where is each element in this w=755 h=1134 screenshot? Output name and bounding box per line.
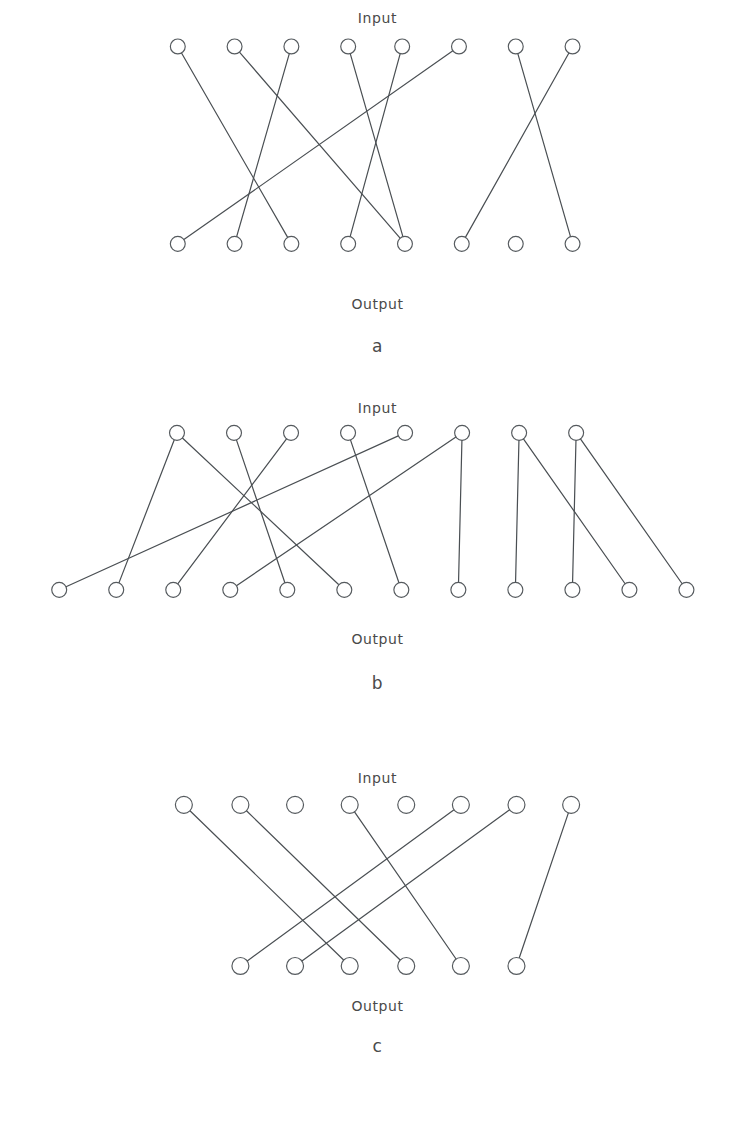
input-node[interactable] bbox=[452, 796, 469, 813]
output-node[interactable] bbox=[232, 957, 249, 974]
figure-c-letter: c bbox=[0, 1036, 755, 1056]
input-node[interactable] bbox=[170, 39, 185, 54]
input-node[interactable] bbox=[287, 796, 304, 813]
input-node[interactable] bbox=[284, 39, 299, 54]
figure-a-input-label: Input bbox=[0, 10, 755, 26]
output-node[interactable] bbox=[394, 582, 409, 597]
input-node[interactable] bbox=[395, 39, 410, 54]
graph-edge bbox=[182, 53, 288, 237]
figure-b-letter: b bbox=[0, 673, 755, 693]
output-node[interactable] bbox=[565, 582, 580, 597]
graph-edge bbox=[247, 810, 454, 961]
input-node[interactable] bbox=[508, 796, 525, 813]
output-node[interactable] bbox=[565, 236, 580, 251]
graph-edge bbox=[237, 54, 290, 237]
figure-c-graph bbox=[0, 786, 755, 998]
input-node[interactable] bbox=[452, 39, 467, 54]
figure-a: Input Output a bbox=[0, 10, 755, 400]
graph-edge bbox=[350, 440, 398, 583]
output-node[interactable] bbox=[398, 957, 415, 974]
input-node[interactable] bbox=[227, 39, 242, 54]
graph-edge bbox=[119, 440, 174, 583]
figure-b: Input Output b bbox=[0, 400, 755, 770]
input-node[interactable] bbox=[455, 425, 470, 440]
input-node[interactable] bbox=[398, 425, 413, 440]
figure-c-output-label: Output bbox=[0, 998, 755, 1014]
graph-edge bbox=[66, 436, 398, 587]
figure-c-input-label: Input bbox=[0, 770, 755, 786]
output-node[interactable] bbox=[109, 582, 124, 597]
input-node[interactable] bbox=[512, 425, 527, 440]
figure-c: Input Output c bbox=[0, 770, 755, 1134]
input-node[interactable] bbox=[569, 425, 584, 440]
input-node[interactable] bbox=[341, 39, 356, 54]
output-node[interactable] bbox=[280, 582, 295, 597]
output-node[interactable] bbox=[622, 582, 637, 597]
output-node[interactable] bbox=[284, 236, 299, 251]
input-node[interactable] bbox=[341, 796, 358, 813]
output-node[interactable] bbox=[679, 582, 694, 597]
figure-a-letter: a bbox=[0, 336, 755, 356]
output-node[interactable] bbox=[508, 236, 523, 251]
graph-edge bbox=[236, 440, 284, 583]
output-node[interactable] bbox=[166, 582, 181, 597]
input-node[interactable] bbox=[341, 425, 356, 440]
output-node[interactable] bbox=[52, 582, 67, 597]
input-node[interactable] bbox=[232, 796, 249, 813]
input-node[interactable] bbox=[565, 39, 580, 54]
output-node[interactable] bbox=[452, 957, 469, 974]
input-node[interactable] bbox=[398, 796, 415, 813]
graph-edge bbox=[516, 440, 519, 582]
output-node[interactable] bbox=[227, 236, 242, 251]
output-node[interactable] bbox=[398, 236, 413, 251]
figure-a-graph bbox=[0, 26, 755, 296]
output-node[interactable] bbox=[337, 582, 352, 597]
graph-edge bbox=[459, 440, 462, 582]
graph-edge bbox=[302, 810, 510, 961]
output-node[interactable] bbox=[287, 957, 304, 974]
graph-edge bbox=[519, 813, 568, 958]
output-node[interactable] bbox=[223, 582, 238, 597]
figure-b-input-label: Input bbox=[0, 400, 755, 416]
graph-edge bbox=[190, 811, 344, 960]
figure-b-graph bbox=[0, 416, 755, 631]
output-node[interactable] bbox=[341, 236, 356, 251]
figure-a-output-label: Output bbox=[0, 296, 755, 312]
figure-page: Input Output a Input Output b Input Outp… bbox=[0, 0, 755, 1134]
graph-edge bbox=[573, 440, 576, 582]
output-node[interactable] bbox=[508, 957, 525, 974]
input-node[interactable] bbox=[563, 796, 580, 813]
input-node[interactable] bbox=[170, 425, 185, 440]
graph-edge bbox=[518, 54, 571, 237]
output-node[interactable] bbox=[170, 236, 185, 251]
graph-edge bbox=[246, 811, 400, 960]
graph-edge bbox=[184, 51, 453, 240]
input-node[interactable] bbox=[175, 796, 192, 813]
graph-edge bbox=[465, 53, 568, 237]
figure-b-output-label: Output bbox=[0, 631, 755, 647]
graph-edge bbox=[580, 439, 682, 584]
output-node[interactable] bbox=[508, 582, 523, 597]
input-node[interactable] bbox=[227, 425, 242, 440]
input-node[interactable] bbox=[284, 425, 299, 440]
output-node[interactable] bbox=[454, 236, 469, 251]
input-node[interactable] bbox=[508, 39, 523, 54]
output-node[interactable] bbox=[341, 957, 358, 974]
output-node[interactable] bbox=[451, 582, 466, 597]
